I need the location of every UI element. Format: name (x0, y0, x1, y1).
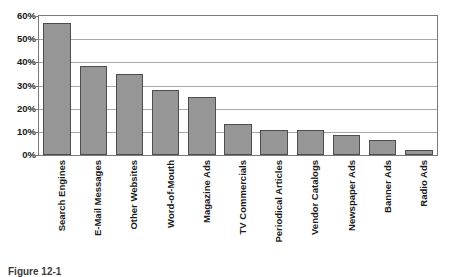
y-axis-tick-mark (34, 155, 38, 156)
y-axis-tick-mark (34, 132, 38, 133)
bar-item[interactable] (401, 16, 437, 155)
x-axis-tick-label: E-Mail Messages (93, 160, 103, 236)
bar-item[interactable] (184, 16, 220, 155)
y-axis-tick-mark (34, 39, 38, 40)
y-axis-tick-label: 40% (2, 58, 36, 68)
bar-item[interactable] (148, 16, 184, 155)
bar[interactable] (369, 140, 396, 155)
y-axis-tick-label: 10% (2, 127, 36, 137)
x-axis-tick-label: Radio Ads (419, 160, 429, 207)
bar-item[interactable] (365, 16, 401, 155)
y-axis-tick-mark (34, 16, 38, 17)
x-axis-tick-label: Banner Ads (383, 160, 393, 213)
x-axis-tick: Word-of-Mouth (148, 158, 184, 258)
y-axis-tick-mark (34, 86, 38, 87)
x-axis-tick-label: Other Websites (129, 160, 139, 230)
bar[interactable] (297, 130, 324, 155)
bar[interactable] (152, 90, 179, 155)
y-axis: 0%10%20%30%40%50%60% (0, 15, 36, 156)
y-axis-tick-label: 60% (2, 11, 36, 21)
bar[interactable] (260, 130, 287, 155)
bar-item[interactable] (328, 16, 364, 155)
x-axis-tick: Banner Ads (365, 158, 401, 258)
figure-caption: Figure 12-1 (8, 266, 61, 277)
y-axis-tick-label: 30% (2, 81, 36, 91)
y-axis-tick-label: 50% (2, 34, 36, 44)
bar[interactable] (333, 135, 360, 155)
x-axis: Search EnginesE-Mail MessagesOther Websi… (39, 158, 437, 258)
x-axis-tick: Other Websites (111, 158, 147, 258)
x-axis-tick: E-Mail Messages (75, 158, 111, 258)
x-axis-tick: Newspaper Ads (328, 158, 364, 258)
y-axis-tick-mark (34, 62, 38, 63)
x-axis-tick-label: Periodical Articles (274, 160, 284, 243)
x-axis-tick: Periodical Articles (256, 158, 292, 258)
y-axis-tick-label: 20% (2, 104, 36, 114)
x-axis-tick-label: Vendor Catalogs (310, 160, 320, 235)
bar-item[interactable] (39, 16, 75, 155)
x-axis-tick-label: Magazine Ads (202, 160, 212, 223)
bar[interactable] (405, 150, 432, 155)
y-axis-tick-label: 0% (2, 150, 36, 160)
bar-item[interactable] (292, 16, 328, 155)
bar-item[interactable] (111, 16, 147, 155)
x-axis-tick: TV Commercials (220, 158, 256, 258)
bars-group (39, 16, 437, 155)
bar-item[interactable] (220, 16, 256, 155)
x-axis-tick: Magazine Ads (184, 158, 220, 258)
bar[interactable] (224, 124, 251, 155)
x-axis-tick: Search Engines (39, 158, 75, 258)
x-axis-tick: Radio Ads (401, 158, 437, 258)
x-axis-tick: Vendor Catalogs (292, 158, 328, 258)
bar-chart: 0%10%20%30%40%50%60% Search EnginesE-Mai… (0, 0, 457, 172)
bar[interactable] (43, 23, 70, 155)
y-axis-tick-mark (34, 109, 38, 110)
bar[interactable] (188, 97, 215, 155)
bar[interactable] (116, 74, 143, 155)
x-axis-tick-label: Search Engines (57, 160, 67, 231)
bar[interactable] (80, 66, 107, 155)
x-axis-tick-label: Word-of-Mouth (166, 160, 176, 228)
x-axis-tick-label: TV Commercials (238, 160, 248, 234)
x-axis-tick-label: Newspaper Ads (347, 160, 357, 231)
bar-item[interactable] (75, 16, 111, 155)
bar-item[interactable] (256, 16, 292, 155)
